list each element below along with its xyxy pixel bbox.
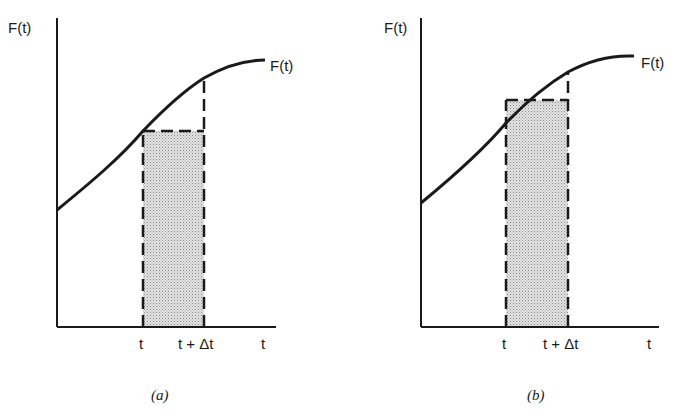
area-rectangle xyxy=(143,131,204,327)
tick-t: t xyxy=(139,335,144,352)
tick-t: t xyxy=(502,335,507,352)
curve-label: F(t) xyxy=(641,54,664,71)
y-axis-label: F(t) xyxy=(8,19,31,36)
tick-t-plus-dt: t + Δt xyxy=(178,335,214,352)
panel-caption: (a) xyxy=(151,387,169,404)
diagram-canvas: F(t) F(t) t t + Δt t (a) F(t) F(t) t t +… xyxy=(0,0,684,420)
y-axis-label: F(t) xyxy=(384,19,407,36)
x-axis-label: t xyxy=(261,335,266,352)
panel-a: F(t) F(t) t t + Δt t (a) xyxy=(8,18,293,404)
tick-t-plus-dt: t + Δt xyxy=(543,335,579,352)
x-axis-label: t xyxy=(647,335,652,352)
panel-caption: (b) xyxy=(527,387,545,404)
curve-label: F(t) xyxy=(270,57,293,74)
panel-b: F(t) F(t) t t + Δt t (b) xyxy=(384,18,664,404)
area-rectangle xyxy=(506,100,568,327)
